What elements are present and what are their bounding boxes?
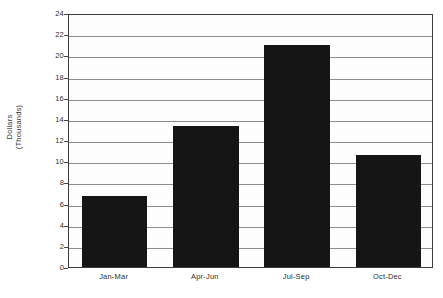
y-axis-tick-label: 2: [40, 243, 64, 251]
y-axis-tick-label: 22: [40, 31, 64, 39]
y-axis-tick-mark: [64, 14, 68, 15]
y-axis-tick-mark: [64, 226, 68, 227]
y-axis-tick-mark: [64, 141, 68, 142]
y-axis-tick-mark: [64, 35, 68, 36]
y-axis-tick-label: 0: [40, 264, 64, 272]
y-axis-tick-label: 18: [40, 74, 64, 82]
bar-chart-figure: Dollars (Thousands) 02468101214161820222…: [0, 0, 443, 298]
y-axis-tick-label: 6: [40, 201, 64, 209]
plot-area: [68, 14, 433, 268]
bar: [82, 196, 148, 267]
y-axis-tick-label: 24: [40, 10, 64, 18]
y-axis-tick-label: 4: [40, 222, 64, 230]
y-axis-tick-mark: [64, 99, 68, 100]
y-axis-tick-mark: [64, 247, 68, 248]
y-axis-tick-labels: 024681012141618202224: [40, 14, 64, 268]
y-axis-tick-label: 14: [40, 116, 64, 124]
y-axis-tick-mark: [64, 183, 68, 184]
y-axis-tick-mark: [64, 78, 68, 79]
y-axis-tick-mark: [64, 56, 68, 57]
y-axis-tick-mark: [64, 205, 68, 206]
bar: [173, 126, 239, 267]
x-axis-tick-labels: Jan-MarApr-JunJul-SepOct-Dec: [68, 272, 433, 288]
y-axis-tick-label: 12: [40, 137, 64, 145]
bar-series: [69, 15, 432, 267]
x-axis-tick-label: Oct-Dec: [342, 272, 433, 281]
y-axis-tick-mark: [64, 162, 68, 163]
y-axis-tick-label: 20: [40, 52, 64, 60]
y-axis-tick-label: 16: [40, 95, 64, 103]
y-axis-tick-mark: [64, 120, 68, 121]
bar: [356, 155, 422, 267]
bar: [264, 45, 330, 267]
y-axis-tick-mark: [64, 268, 68, 269]
x-axis-tick-label: Apr-Jun: [159, 272, 250, 281]
y-axis-tick-label: 10: [40, 158, 64, 166]
x-axis-tick-label: Jan-Mar: [68, 272, 159, 281]
y-axis-tick-label: 8: [40, 179, 64, 187]
x-axis-tick-label: Jul-Sep: [251, 272, 342, 281]
y-axis-title: Dollars (Thousands): [5, 87, 23, 167]
